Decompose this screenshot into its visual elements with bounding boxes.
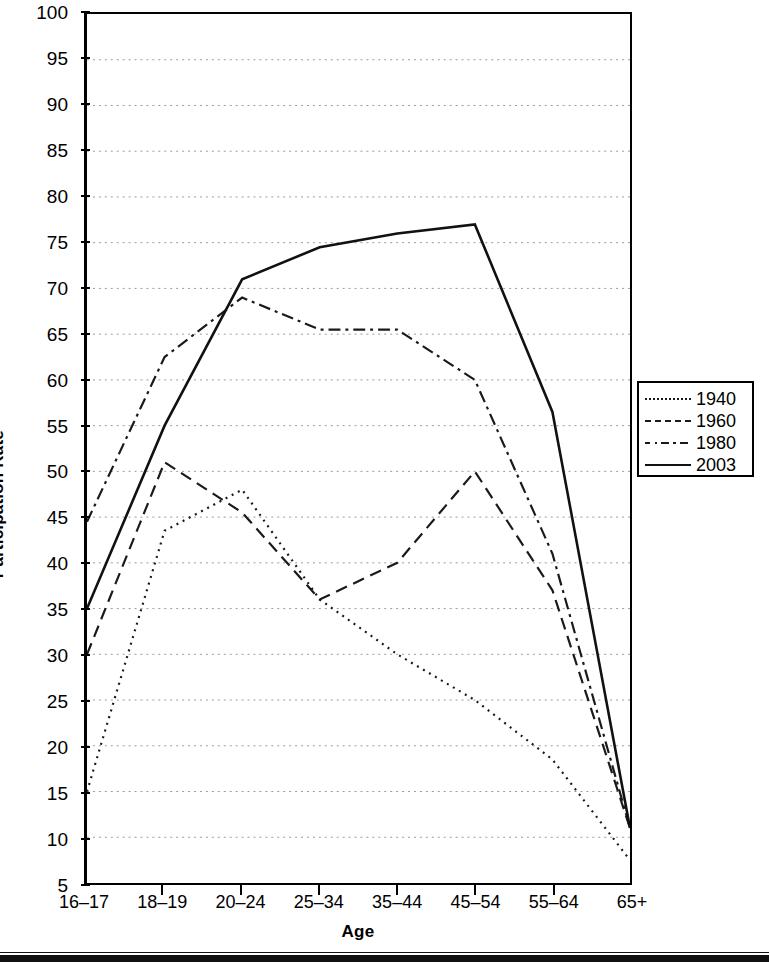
y-tick-mark <box>81 11 90 13</box>
y-tick-mark <box>81 103 90 105</box>
y-tick-label: 80 <box>47 186 68 205</box>
y-tick-mark <box>81 654 90 656</box>
data-lines <box>87 14 630 883</box>
y-tick-mark <box>81 425 90 427</box>
y-tick-label: 70 <box>47 278 68 297</box>
y-tick-mark <box>81 516 90 518</box>
y-tick-label: 95 <box>47 48 68 67</box>
y-tick-label: 60 <box>47 370 68 389</box>
x-tick-label: 45–54 <box>450 893 500 911</box>
legend-label: 1960 <box>696 412 736 430</box>
y-tick-mark <box>81 379 90 381</box>
x-tick-label: 18–19 <box>137 893 187 911</box>
legend-label: 1980 <box>696 434 736 452</box>
y-tick-label: 90 <box>47 94 68 113</box>
figure: Participation Rate 510152025303540455055… <box>0 0 769 962</box>
y-tick-label: 85 <box>47 140 68 159</box>
plot-area <box>84 12 632 885</box>
y-tick-mark <box>81 746 90 748</box>
y-tick-label: 30 <box>47 646 68 665</box>
series-line-1960 <box>87 462 630 828</box>
y-tick-label: 20 <box>47 738 68 757</box>
x-tick-label: 55–64 <box>529 893 579 911</box>
y-tick-mark <box>81 333 90 335</box>
y-tick-label: 25 <box>47 692 68 711</box>
x-tick-label: 25–34 <box>294 893 344 911</box>
series-line-2003 <box>87 224 630 828</box>
legend: 1940 1960 1980 2003 <box>637 381 754 477</box>
y-tick-label: 50 <box>47 462 68 481</box>
y-tick-label: 55 <box>47 416 68 435</box>
y-tick-mark <box>81 792 90 794</box>
y-tick-mark <box>81 562 90 564</box>
x-tick-label: 16–17 <box>59 893 109 911</box>
legend-item-1960: 1960 <box>645 410 746 432</box>
y-tick-label: 35 <box>47 600 68 619</box>
legend-item-2003: 2003 <box>645 454 746 476</box>
y-tick-label: 65 <box>47 324 68 343</box>
series-line-1980 <box>87 298 630 829</box>
y-tick-label: 100 <box>36 3 68 22</box>
y-tick-mark <box>81 470 90 472</box>
y-tick-label: 40 <box>47 554 68 573</box>
legend-label: 2003 <box>696 456 736 474</box>
y-tick-label: 75 <box>47 232 68 251</box>
y-tick-mark <box>81 241 90 243</box>
footer-rule <box>0 955 769 962</box>
x-axis-title: Age <box>84 922 632 942</box>
x-tick-label: 20–24 <box>216 893 266 911</box>
legend-swatch-dashdot-icon <box>645 442 691 444</box>
x-tick-label: 65+ <box>617 893 648 911</box>
y-tick-mark <box>81 700 90 702</box>
legend-item-1940: 1940 <box>645 388 746 410</box>
y-tick-label: 10 <box>47 830 68 849</box>
legend-swatch-dashed-icon <box>645 420 691 422</box>
footer-rule-thin <box>0 952 769 953</box>
y-tick-mark <box>81 195 90 197</box>
y-tick-label: 45 <box>47 508 68 527</box>
x-axis-tick-labels: 16–1718–1920–2425–3435–4445–5455–6465+ <box>84 893 632 919</box>
y-tick-mark <box>81 884 90 886</box>
legend-label: 1940 <box>696 390 736 408</box>
y-tick-label: 15 <box>47 784 68 803</box>
y-tick-mark <box>81 149 90 151</box>
x-tick-label: 35–44 <box>372 893 422 911</box>
y-tick-mark <box>81 57 90 59</box>
y-tick-mark <box>81 608 90 610</box>
y-axis-tick-labels: 5101520253035404550556065707580859095100 <box>0 12 78 885</box>
y-tick-mark <box>81 287 90 289</box>
y-tick-mark <box>81 838 90 840</box>
legend-swatch-dotted-icon <box>645 398 691 400</box>
legend-item-1980: 1980 <box>645 432 746 454</box>
legend-swatch-solid-icon <box>645 464 691 466</box>
